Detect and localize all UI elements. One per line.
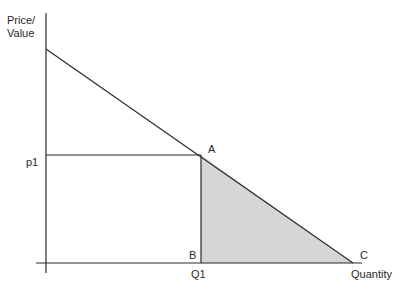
quantity-q1-label: Q1 <box>191 268 206 281</box>
y-axis-label-line1: Price/ <box>7 14 35 27</box>
point-b-label: B <box>189 249 196 262</box>
x-axis-label: Quantity <box>351 268 392 281</box>
demand-line <box>46 49 353 263</box>
y-axis-label-line2: Value <box>7 27 34 40</box>
point-c-label: C <box>360 249 368 262</box>
price-p1-label: p1 <box>26 156 38 169</box>
diagram-canvas <box>0 0 406 295</box>
point-a-label: A <box>208 143 215 156</box>
